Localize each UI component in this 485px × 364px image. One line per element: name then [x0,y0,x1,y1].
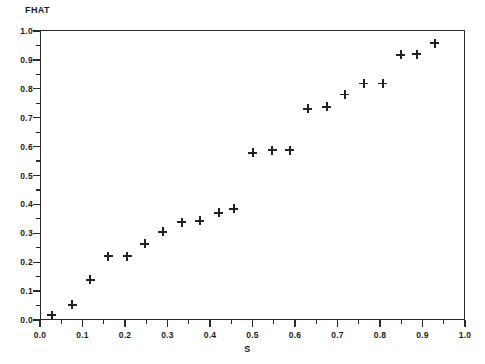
y-axis-minor-tick [36,45,40,46]
y-axis-tick [33,146,40,147]
x-axis-minor-tick [358,320,359,324]
x-axis-minor-tick [231,320,232,324]
y-axis-tick-label: 0.0 [3,315,33,325]
data-point-marker [322,102,331,111]
y-axis-tick [33,204,40,205]
x-axis-tick [379,320,380,327]
x-axis-tick [422,320,423,327]
x-axis-tick-label: 0.2 [105,330,145,340]
x-axis-tick [294,320,295,327]
x-axis-tick [39,320,40,327]
data-point-marker [268,146,277,155]
y-axis-minor-tick [36,247,40,248]
y-axis-tick-label: 0.5 [3,171,33,181]
y-axis-tick-label: 0.2 [3,257,33,267]
y-axis-minor-tick [36,160,40,161]
y-axis-label: FHAT [25,5,50,15]
x-axis-tick-label: 1.0 [445,330,485,340]
x-axis-minor-tick [443,320,444,324]
data-point-marker [229,204,238,213]
x-axis-minor-tick [146,320,147,324]
y-axis-tick-label: 0.8 [3,84,33,94]
data-point-marker [285,146,294,155]
y-axis-tick [33,59,40,60]
y-axis-tick [33,290,40,291]
x-axis-minor-tick [61,320,62,324]
data-point-marker [303,104,312,113]
y-axis-tick-label: 0.7 [3,113,33,123]
x-axis-tick-label: 0.0 [20,330,60,340]
y-axis-minor-tick [36,276,40,277]
y-axis-tick-label: 0.9 [3,55,33,65]
x-axis-tick-label: 0.9 [403,330,443,340]
data-point-marker [158,227,167,236]
data-point-marker [214,208,223,217]
x-axis-tick-label: 0.6 [275,330,315,340]
data-point-marker [47,311,56,320]
x-axis-minor-tick [316,320,317,324]
data-point-marker [104,252,113,261]
data-point-marker [396,50,405,59]
data-point-marker [340,90,349,99]
y-axis-tick [33,233,40,234]
x-axis-tick [337,320,338,327]
y-axis-minor-tick [36,132,40,133]
y-axis-tick [33,88,40,89]
x-axis-tick [82,320,83,327]
data-point-marker [195,216,204,225]
x-axis-tick-label: 0.8 [360,330,400,340]
x-axis-tick-label: 0.7 [318,330,358,340]
data-point-marker [86,275,95,284]
plot-area [40,30,465,320]
y-axis-tick-label: 1.0 [3,26,33,36]
y-axis-tick-label: 0.3 [3,228,33,238]
x-axis-tick [209,320,210,327]
x-axis-minor-tick [103,320,104,324]
y-axis-tick-label: 0.1 [3,286,33,296]
x-axis-tick [464,320,465,327]
x-axis-tick-label: 0.1 [63,330,103,340]
data-point-marker [140,239,149,248]
y-axis-minor-tick [36,305,40,306]
data-point-marker [378,79,387,88]
data-point-marker [177,218,186,227]
scatter-plot-figure: FHAT 0.00.10.20.30.40.50.60.70.80.91.00.… [0,0,485,364]
y-axis-tick [33,175,40,176]
y-axis-tick-label: 0.6 [3,142,33,152]
y-axis-tick [33,117,40,118]
data-point-marker [412,50,421,59]
x-axis-tick-label: 0.4 [190,330,230,340]
x-axis-tick-label: 0.5 [233,330,273,340]
y-axis-minor-tick [36,189,40,190]
data-point-marker [430,39,439,48]
y-axis-tick [33,262,40,263]
x-axis-minor-tick [188,320,189,324]
x-axis-label: S [5,344,485,354]
x-axis-minor-tick [273,320,274,324]
x-axis-tick [167,320,168,327]
data-point-marker [123,252,132,261]
x-axis-minor-tick [401,320,402,324]
y-axis-minor-tick [36,74,40,75]
x-axis-tick [124,320,125,327]
data-point-marker [68,300,77,309]
x-axis-tick [252,320,253,327]
x-axis-tick-label: 0.3 [148,330,188,340]
y-axis-minor-tick [36,218,40,219]
data-point-marker [359,79,368,88]
y-axis-tick-label: 0.4 [3,199,33,209]
y-axis-tick [33,30,40,31]
y-axis-minor-tick [36,103,40,104]
data-point-marker [248,148,257,157]
